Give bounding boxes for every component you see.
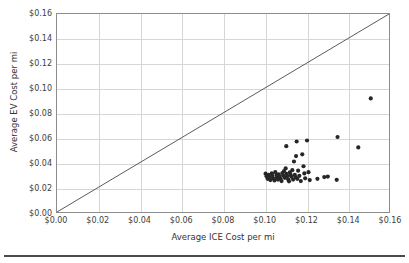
data-point	[305, 138, 309, 142]
data-point	[302, 171, 306, 175]
data-point	[308, 178, 312, 182]
data-point	[279, 179, 283, 183]
y-tick-label: $0.16	[0, 9, 52, 18]
data-point	[306, 170, 310, 174]
x-tick-label: $0.08	[203, 216, 243, 226]
y-tick-label: $0.08	[0, 109, 52, 118]
x-tick-label: $0.16	[370, 216, 409, 226]
data-point	[335, 178, 339, 182]
data-point	[287, 179, 291, 183]
data-point	[284, 144, 288, 148]
data-point	[300, 152, 304, 156]
data-point	[294, 154, 298, 158]
y-tick-label: $0.02	[0, 184, 52, 193]
data-point	[356, 145, 360, 149]
x-tick-label: $0.04	[120, 216, 160, 226]
y-tick-label: $0.06	[0, 134, 52, 143]
x-axis-title: Average ICE Cost per mi	[56, 232, 390, 242]
plot-canvas	[57, 14, 389, 212]
data-point	[326, 175, 330, 179]
y-tick-label: $0.14	[0, 34, 52, 43]
data-point	[295, 139, 299, 143]
y-tick-label: $0.12	[0, 59, 52, 68]
data-point	[369, 96, 373, 100]
x-tick-label: $0.12	[287, 216, 327, 226]
data-point	[296, 169, 300, 173]
scatter-chart-figure: $0.00$0.02$0.04$0.06$0.08$0.10$0.12$0.14…	[0, 0, 409, 263]
data-point	[322, 175, 326, 179]
data-point	[315, 177, 319, 181]
x-tick-label: $0.10	[245, 216, 285, 226]
x-tick-label: $0.02	[78, 216, 118, 226]
x-tick-label: $0.06	[161, 216, 201, 226]
data-point	[292, 159, 296, 163]
data-point	[303, 176, 307, 180]
data-point	[335, 135, 339, 139]
data-point	[290, 168, 294, 172]
y-tick-label: $0.10	[0, 84, 52, 93]
y-axis-title: Average EV Cost per mi	[9, 22, 19, 182]
y-tick-label: $0.04	[0, 159, 52, 168]
data-point	[299, 179, 303, 183]
data-points-group	[263, 96, 372, 183]
x-tick-label: $0.00	[36, 216, 76, 226]
data-point	[297, 174, 301, 178]
data-point	[301, 164, 305, 168]
footer-rule	[4, 255, 405, 257]
x-tick-label: $0.14	[328, 216, 368, 226]
parity-reference-line	[57, 14, 389, 212]
data-point	[284, 166, 288, 170]
plot-area	[56, 13, 390, 213]
x-axis-tick-labels: $0.00$0.02$0.04$0.06$0.08$0.10$0.12$0.14…	[56, 216, 390, 228]
y-axis-tick-labels: $0.00$0.02$0.04$0.06$0.08$0.10$0.12$0.14…	[0, 13, 52, 213]
